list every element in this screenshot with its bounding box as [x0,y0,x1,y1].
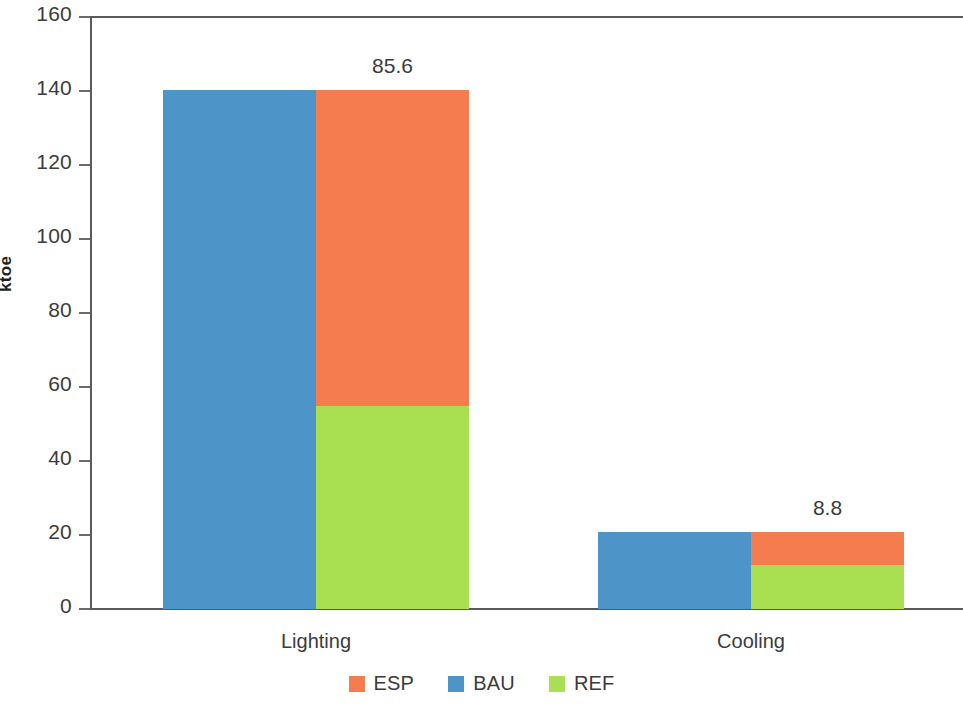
legend-item-esp[interactable]: ESP [349,672,415,695]
bar-segment-ref[interactable] [751,565,904,609]
bar-segment-bau[interactable] [598,532,751,609]
legend-item-ref[interactable]: REF [549,672,615,695]
x-axis-category-label: Lighting [281,630,351,653]
bar-value-label: 85.6 [316,54,469,78]
chart-legend: ESPBAUREF [0,672,963,695]
legend-item-bau[interactable]: BAU [448,672,515,695]
legend-label: REF [574,672,615,695]
legend-label: BAU [473,672,515,695]
bar-value-label: 8.8 [751,496,904,520]
chart-figure: ktoe 020406080100120140160 85.6Lighting8… [0,0,963,709]
legend-label: ESP [374,672,415,695]
bar-segment-esp[interactable] [316,90,469,407]
bar-segment-esp[interactable] [751,532,904,565]
x-axis-category-label: Cooling [717,630,785,653]
bar[interactable] [163,90,316,609]
legend-swatch-icon [349,676,365,692]
plot-area: 85.6Lighting8.8Cooling [0,0,963,709]
bar[interactable] [751,532,904,609]
bar-segment-bau[interactable] [163,90,316,609]
legend-swatch-icon [549,676,565,692]
legend-swatch-icon [448,676,464,692]
bar[interactable] [598,532,751,609]
bar-segment-ref[interactable] [316,406,469,609]
bar[interactable] [316,90,469,609]
